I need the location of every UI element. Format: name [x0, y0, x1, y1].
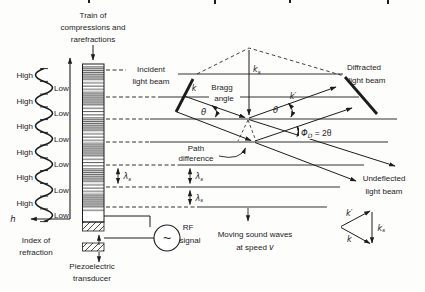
ks-top-label: ks	[253, 65, 261, 75]
incident-label-line1: Incident	[137, 65, 166, 74]
h-axis-label: h	[10, 214, 15, 224]
low-label: Low	[54, 160, 69, 169]
low-label: Low	[54, 135, 69, 144]
train-caption-line2: compressions and	[61, 23, 126, 32]
theta-label-left: θ	[201, 107, 207, 117]
electrode-hatch-bottom	[83, 243, 105, 251]
electrode-hatch-top	[83, 222, 105, 231]
k-prime-label: k′	[346, 209, 353, 218]
sound-label-line1: Moving sound waves	[218, 230, 293, 239]
high-labels: High High High High High High	[17, 71, 33, 208]
sound-label-line2: at speed v	[236, 243, 274, 252]
high-label: High	[17, 71, 33, 80]
piezo-caption-line2: transducer	[73, 274, 111, 283]
high-label: High	[17, 97, 33, 106]
cropped-text-artifacts	[88, 0, 389, 4]
piezo-caption-line1: Piezoelectric	[69, 262, 114, 271]
low-labels: Low Low Low Low Low Low	[54, 84, 69, 221]
diffracted-label-line1: Diffracted	[347, 63, 381, 72]
theta-label-right: θ	[273, 105, 279, 115]
rf-label-line1: RF	[183, 223, 194, 232]
deflection-angle-label: ΦD = 2θ	[301, 128, 332, 139]
path-difference-label-line2: difference	[179, 154, 215, 163]
k-vector-triangle: k′ k ks	[341, 209, 385, 244]
theta-arc-right	[289, 104, 293, 118]
path-difference-label-line1: Path	[188, 144, 204, 153]
undeflected-label-line2: light beam	[366, 187, 403, 196]
diffracted-label-line2: light beam	[349, 76, 386, 85]
train-caption-line3: rarefractions	[71, 35, 115, 44]
low-label: Low	[54, 186, 69, 195]
high-label: High	[17, 148, 33, 157]
sound-wavefronts	[106, 70, 397, 207]
compression-stripes	[83, 66, 105, 212]
lambda-s-label: λs	[195, 172, 204, 182]
k-vector	[341, 228, 370, 244]
train-caption-line1: Train of	[80, 11, 108, 20]
wave-axis-ticks	[40, 69, 48, 222]
index-caption-line2: refraction	[19, 248, 52, 257]
ks-construction-dashes	[197, 48, 344, 76]
bragg-label-line2: angle	[214, 94, 234, 103]
acousto-optic-bragg-diffraction-figure: High High High High High High Low Low Lo…	[0, 0, 425, 292]
low-label: Low	[54, 211, 69, 220]
low-label: Low	[54, 84, 69, 93]
high-label: High	[17, 122, 33, 131]
path-difference-pointer	[219, 148, 246, 157]
rf-label-line2: signal	[180, 236, 201, 245]
acoustic-column-assembly: Train of compressions and rarefractions …	[61, 11, 201, 283]
ks-label: ks	[378, 224, 386, 234]
figure-labels: Incident light beam Bragg angle Diffract…	[133, 63, 406, 252]
undeflected-label-line1: Undeflected	[363, 174, 406, 183]
index-caption-line1: Index of	[22, 236, 51, 245]
wavelength-markers: λs λs λs	[118, 169, 203, 205]
low-label: Low	[54, 109, 69, 118]
high-label: High	[17, 199, 33, 208]
incident-wavefront-bar	[176, 79, 193, 112]
path-difference-dashes	[238, 120, 256, 141]
incident-label-line2: light beam	[133, 77, 170, 86]
undeflected-ray-1	[249, 120, 395, 166]
lambda-s-label: λs	[123, 172, 132, 182]
k-incident-label: k	[192, 84, 197, 93]
high-label: High	[17, 173, 33, 182]
refractive-index-panel: High High High High High High Low Low Lo…	[10, 58, 70, 257]
k-label: k	[347, 235, 352, 244]
ac-source-symbol: ~	[163, 230, 171, 246]
rf-wire-top	[104, 216, 150, 227]
bragg-label-line1: Bragg	[211, 83, 232, 92]
figure-canvas: High High High High High High Low Low Lo…	[0, 0, 425, 292]
lambda-s-label: λs	[195, 194, 204, 204]
k-diffracted-label: k′	[290, 92, 297, 101]
